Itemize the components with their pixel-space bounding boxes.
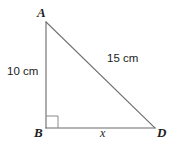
side-hypotenuse-AD (46, 22, 155, 128)
right-angle-marker-icon (46, 116, 58, 128)
geometry-figure: A B D 10 cm 15 cm x (0, 0, 178, 145)
vertex-label-a: A (37, 6, 46, 19)
side-length-label-ab: 10 cm (7, 66, 38, 78)
side-length-label-bd: x (100, 127, 105, 139)
vertex-label-b: B (34, 126, 43, 139)
vertex-label-d: D (157, 126, 166, 139)
side-length-label-ad: 15 cm (107, 53, 138, 65)
